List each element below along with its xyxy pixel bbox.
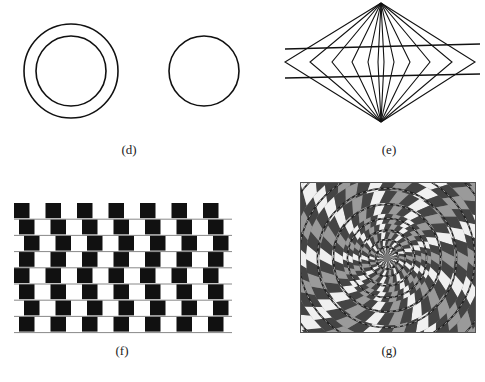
cafe-wall-black-tile <box>82 219 98 234</box>
hering-radial-line <box>332 3 381 122</box>
cafe-wall-black-tile <box>145 316 161 331</box>
cafe-wall-black-tile <box>87 300 103 315</box>
cafe-wall-black-tile <box>46 203 62 218</box>
cafe-wall-black-tile <box>51 252 67 267</box>
cafe-wall-black-tile <box>114 284 130 299</box>
cafe-wall-black-tile <box>19 219 35 234</box>
cafe-wall-black-tile <box>208 252 224 267</box>
cafe-wall-black-tile <box>119 235 135 250</box>
panel-e-hering <box>270 0 485 130</box>
caption-g: (g) <box>369 343 409 359</box>
hering-radial-line <box>381 3 394 122</box>
cafe-wall-black-tile <box>150 300 166 315</box>
cafe-wall-black-tile <box>177 316 193 331</box>
cafe-wall-black-tile <box>213 300 229 315</box>
cafe-wall-black-tile <box>177 252 193 267</box>
cafe-wall-black-tile <box>109 203 125 218</box>
cafe-wall-black-tile <box>145 252 161 267</box>
cafe-wall-black-tile <box>19 316 35 331</box>
caption-d: (d) <box>109 142 149 158</box>
inner-circle <box>36 36 106 106</box>
cafe-wall-black-tile <box>145 219 161 234</box>
cafe-wall-black-tile <box>19 252 35 267</box>
cafe-wall-black-tile <box>87 235 103 250</box>
cafe-wall-black-tile <box>172 268 188 283</box>
isolated-circle <box>169 36 239 106</box>
cafe-wall-black-tile <box>51 316 67 331</box>
cafe-wall-black-tile <box>14 203 30 218</box>
cafe-wall-black-tile <box>109 268 125 283</box>
cafe-wall-illusion-graphic <box>0 195 250 340</box>
cafe-wall-black-tile <box>56 235 72 250</box>
cafe-wall-black-tile <box>213 235 229 250</box>
cafe-wall-black-tile <box>177 219 193 234</box>
cafe-wall-black-tile <box>77 203 93 218</box>
cafe-wall-black-tile <box>114 252 130 267</box>
cafe-wall-black-tile <box>51 219 67 234</box>
cafe-wall-black-tile <box>177 284 193 299</box>
cafe-wall-black-tile <box>51 284 67 299</box>
cafe-wall-black-tile <box>77 268 93 283</box>
cafe-wall-black-tile <box>56 300 72 315</box>
cafe-wall-black-tile <box>172 203 188 218</box>
fraser-spiral-illusion-graphic <box>300 182 476 333</box>
cafe-wall-black-tile <box>24 300 40 315</box>
cafe-wall-black-tile <box>150 235 166 250</box>
hering-radial-line <box>368 3 381 122</box>
cafe-wall-black-tile <box>140 203 156 218</box>
cafe-wall-black-tile <box>82 252 98 267</box>
cafe-wall-black-tile <box>19 284 35 299</box>
cafe-wall-black-tile <box>208 284 224 299</box>
cafe-wall-black-tile <box>182 300 198 315</box>
hering-radial-line <box>378 3 381 122</box>
cafe-wall-black-tile <box>14 268 30 283</box>
hering-radial-line <box>310 3 381 122</box>
cafe-wall-black-tile <box>119 300 135 315</box>
cafe-wall-black-tile <box>82 316 98 331</box>
caption-f: (f) <box>102 343 142 359</box>
cafe-wall-black-tile <box>203 268 219 283</box>
cafe-wall-black-tile <box>114 219 130 234</box>
cafe-wall-black-tile <box>140 268 156 283</box>
cafe-wall-black-tile <box>208 316 224 331</box>
cafe-wall-black-tile <box>203 203 219 218</box>
cafe-wall-black-tile <box>114 316 130 331</box>
hering-radial-line <box>381 3 430 122</box>
cafe-wall-black-tile <box>46 268 62 283</box>
caption-e: (e) <box>369 142 409 158</box>
hering-radial-line <box>381 3 384 122</box>
hering-illusion-graphic <box>270 0 485 130</box>
cafe-wall-black-tile <box>208 219 224 234</box>
hering-radial-line <box>381 3 452 122</box>
cafe-wall-black-tile <box>82 284 98 299</box>
cafe-wall-black-tile <box>24 235 40 250</box>
panel-g-fraser-spiral <box>300 182 476 333</box>
cafe-wall-black-tile <box>145 284 161 299</box>
cafe-wall-black-tile <box>182 235 198 250</box>
outer-ring-circle <box>24 24 118 118</box>
panel-f-cafe-wall <box>0 195 250 340</box>
